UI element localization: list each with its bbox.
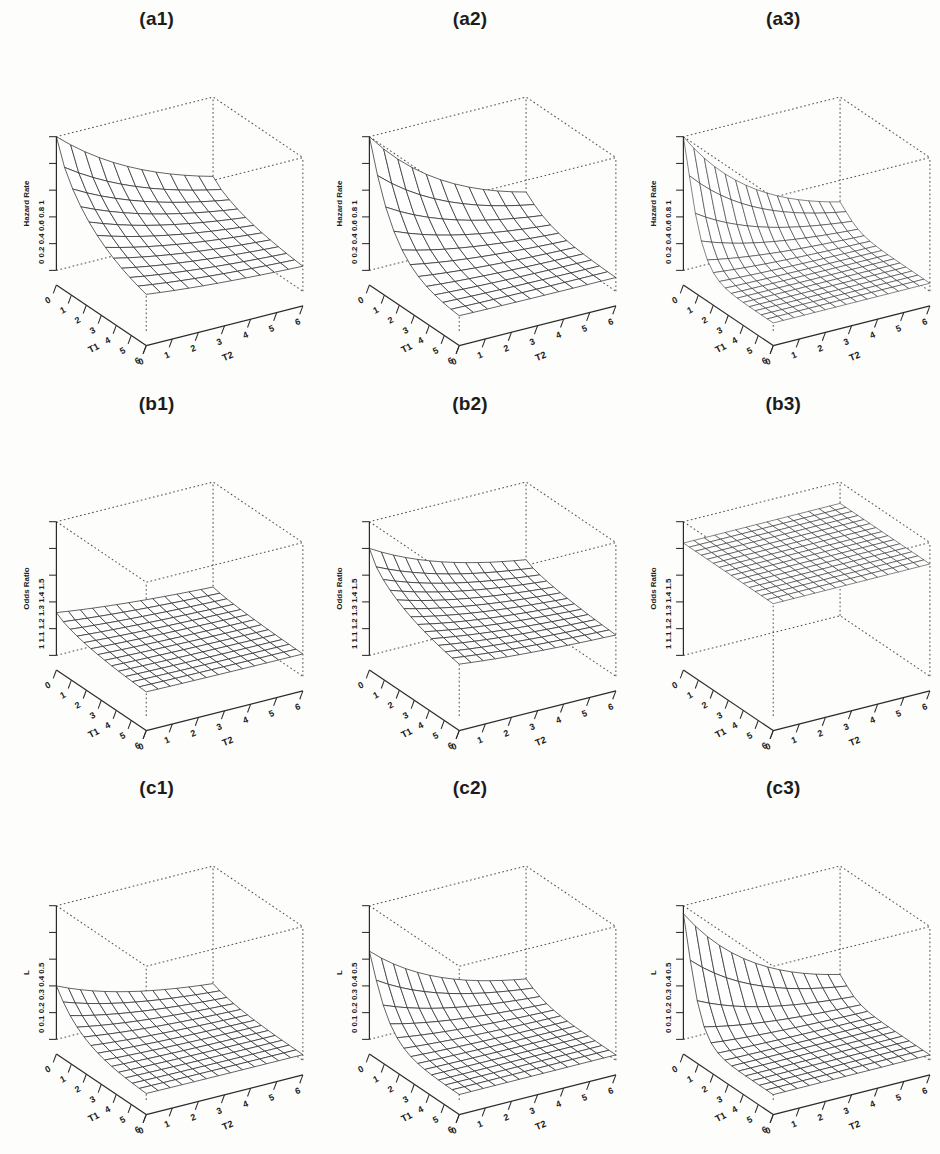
y-tick-label: 5 (894, 708, 902, 719)
y-tick-label: 5 (581, 1092, 589, 1103)
x-tick-label: 3 (401, 1094, 410, 1105)
y-tick-label: 5 (581, 323, 589, 334)
z-axis: 0 0.2 0.4 0.6 0.8 1Hazard Rate (22, 137, 56, 271)
y-axis-t2: 0123456T2 (763, 691, 929, 752)
plot-area: 1 1.1 1.2 1.3 1.4 1.5Odds Ratio0123456T1… (627, 445, 940, 770)
y-tick-label: 6 (607, 1086, 615, 1097)
x-axis-t1: 0123456T1 (43, 285, 146, 366)
surface-mesh (683, 137, 929, 323)
x-tick-label: 1 (58, 689, 67, 700)
plot-area: 0 0.1 0.2 0.3 0.4 0.5L0123456T10123456T2 (0, 829, 313, 1154)
y-tick-label: 5 (267, 708, 275, 719)
y-tick-label: 6 (920, 316, 928, 327)
x-tick-label: 4 (103, 335, 112, 346)
panel-title: (c2) (313, 777, 626, 799)
y-tick-label: 2 (816, 1112, 824, 1123)
surface-mesh (56, 587, 302, 692)
x-tick-label: 5 (118, 730, 127, 741)
x-tick-label: 3 (715, 1094, 724, 1105)
surface-mesh (370, 951, 616, 1094)
x-axis-title: T1 (86, 1110, 101, 1125)
z-axis-title: Hazard Rate (22, 180, 31, 226)
x-tick-label: 5 (118, 345, 127, 356)
x-tick-label: 5 (745, 345, 754, 356)
z-tick-labels: 0 0.1 0.2 0.3 0.4 0.5 (37, 962, 46, 1033)
y-tick-label: 5 (267, 323, 275, 334)
surface-plot: 0 0.2 0.4 0.6 0.8 1Hazard Rate0123456T10… (313, 60, 626, 385)
x-tick-label: 0 (670, 295, 679, 306)
y-tick-label: 4 (868, 330, 876, 341)
x-tick-label: 3 (715, 709, 724, 720)
x-tick-label: 1 (58, 305, 67, 316)
x-tick-label: 4 (416, 1104, 425, 1115)
x-tick-label: 1 (685, 305, 694, 316)
x-tick-label: 3 (401, 325, 410, 336)
panel-title: (a2) (313, 8, 626, 30)
surface-mesh (370, 137, 616, 316)
y-tick-label: 1 (790, 1119, 798, 1130)
z-axis-title: L (22, 970, 31, 975)
z-axis: 0 0.1 0.2 0.3 0.4 0.5L (22, 906, 56, 1040)
y-tick-label: 5 (894, 1092, 902, 1103)
x-tick-label: 0 (356, 679, 365, 690)
x-axis-t1: 0123456T1 (670, 670, 773, 751)
surface-panel-a1: (a1)0 0.2 0.4 0.6 0.8 1Hazard Rate012345… (0, 0, 313, 385)
surface-panel-a3: (a3)0 0.2 0.4 0.6 0.8 1Hazard Rate012345… (627, 0, 940, 385)
z-tick-labels: 1 1.1 1.2 1.3 1.4 1.5 (37, 578, 46, 649)
surface-plot: 1 1.1 1.2 1.3 1.4 1.5Odds Ratio0123456T1… (0, 445, 313, 770)
z-axis-title: Hazard Rate (336, 180, 345, 226)
y-tick-label: 2 (816, 727, 824, 738)
y-tick-label: 3 (842, 1105, 850, 1116)
z-axis-title: Hazard Rate (649, 180, 658, 226)
y-tick-label: 1 (163, 734, 171, 745)
x-tick-label: 2 (73, 315, 82, 326)
y-tick-label: 3 (528, 721, 536, 732)
z-axis-title: Odds Ratio (649, 567, 658, 609)
x-tick-label: 1 (371, 305, 380, 316)
y-tick-label: 3 (215, 336, 223, 347)
z-axis-title: Odds Ratio (336, 567, 345, 609)
y-axis-title: T2 (220, 1118, 234, 1132)
y-tick-label: 3 (215, 1105, 223, 1116)
y-axis-title: T2 (847, 1118, 861, 1132)
y-tick-label: 1 (790, 734, 798, 745)
y-axis-title: T2 (220, 349, 234, 363)
z-tick-labels: 1 1.1 1.2 1.3 1.4 1.5 (664, 578, 673, 649)
panel-title: (c1) (0, 777, 313, 799)
x-tick-label: 0 (43, 679, 52, 690)
x-axis-title: T1 (713, 725, 728, 740)
x-tick-label: 2 (700, 315, 709, 326)
y-tick-label: 6 (920, 701, 928, 712)
y-tick-label: 2 (502, 343, 510, 354)
x-tick-label: 3 (88, 325, 97, 336)
x-tick-label: 5 (431, 730, 440, 741)
y-tick-label: 6 (293, 701, 301, 712)
x-axis-title: T1 (86, 725, 101, 740)
x-tick-label: 0 (356, 1064, 365, 1075)
y-axis-t2: 0123456T2 (450, 691, 616, 752)
y-tick-label: 3 (842, 721, 850, 732)
y-tick-label: 6 (293, 1086, 301, 1097)
z-axis-title: L (336, 970, 345, 975)
surface-panel-c2: (c2)0 0.1 0.2 0.3 0.4 0.5L0123456T101234… (313, 769, 626, 1154)
surface-plot: 1 1.1 1.2 1.3 1.4 1.5Odds Ratio0123456T1… (313, 445, 626, 770)
x-axis-title: T1 (86, 340, 101, 355)
x-tick-label: 2 (700, 699, 709, 710)
x-tick-label: 2 (386, 699, 395, 710)
y-tick-label: 4 (241, 714, 249, 725)
surface-panel-b2: (b2)1 1.1 1.2 1.3 1.4 1.5Odds Ratio01234… (313, 385, 626, 770)
y-tick-label: 4 (555, 1099, 563, 1110)
x-tick-label: 3 (401, 709, 410, 720)
y-axis-title: T2 (534, 349, 548, 363)
y-tick-label: 1 (163, 1119, 171, 1130)
y-axis-t2: 0123456T2 (137, 691, 303, 752)
surface-panel-c3: (c3)0 0.1 0.2 0.3 0.4 0.5L0123456T101234… (627, 769, 940, 1154)
x-tick-label: 4 (103, 720, 112, 731)
y-tick-label: 5 (267, 1092, 275, 1103)
y-tick-label: 1 (476, 1119, 484, 1130)
z-tick-labels: 0 0.1 0.2 0.3 0.4 0.5 (664, 962, 673, 1033)
z-axis: 0 0.1 0.2 0.3 0.4 0.5L (649, 906, 683, 1040)
x-tick-label: 0 (43, 294, 52, 305)
y-tick-label: 6 (293, 316, 301, 327)
plot-area: 0 0.2 0.4 0.6 0.8 1Hazard Rate0123456T10… (627, 60, 940, 385)
